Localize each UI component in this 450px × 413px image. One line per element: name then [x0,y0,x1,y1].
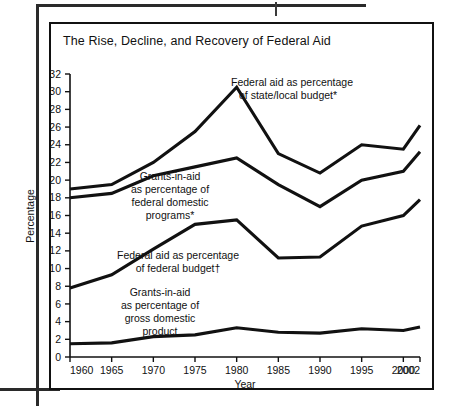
x-axis-tick-label: 1975 [183,364,207,376]
y-axis-tick-label: 8 [55,280,61,292]
x-axis-tick-label: 1980 [225,364,249,376]
y-axis-tick-label: 2 [55,333,61,345]
y-axis-tick-label: 30 [49,85,61,97]
y-axis-tick-label: 16 [49,209,61,221]
y-axis-tick-label: 22 [49,156,61,168]
annotation-line-4: product [142,325,177,337]
annotation-line-1: Federal aid as percentage [231,76,353,88]
y-axis-tick-label: 0 [55,351,61,363]
y-axis-tick-label: 14 [49,227,61,239]
series-line-0 [70,87,420,189]
y-axis-tick-label: 10 [49,262,61,274]
y-axis-tick-label: 26 [49,121,61,133]
annotation-line-2: of state/local budget* [239,89,337,101]
y-axis-tick-label: 24 [49,138,61,150]
x-axis-title: Year [234,378,256,390]
x-axis-tick-label: 2002 [397,364,421,376]
annotation-line-3: federal domestic [131,196,208,208]
annotation-line-1: Federal aid as percentage [117,249,239,261]
x-axis-tick-label: 1985 [267,364,291,376]
x-axis-tick-label: 1990 [308,364,332,376]
y-axis-tick-label: 32 [49,68,61,80]
annotation-line-1: Grants-in-aid [130,286,191,298]
annotation-line-1: Grants-in-aid [140,170,201,182]
y-axis-tick-label: 12 [49,244,61,256]
x-axis-tick-label: 1965 [100,364,124,376]
y-axis-tick-label: 28 [49,103,61,115]
annotation-state-local-budget: Federal aid as percentage of state/local… [231,76,353,101]
x-axis-tick-label: 1960 [70,364,94,376]
annotation-line-2: of federal budget† [136,262,221,274]
axes [70,74,420,357]
annotation-federal-budget: Federal aid as percentage of federal bud… [117,249,239,274]
annotation-line-3: gross domestic [125,312,196,324]
x-axis-tick-label: 1970 [142,364,166,376]
annotation-federal-domestic-programs: Grants-in-aid as percentage of federal d… [131,170,209,221]
line-chart: 02468101214161820222426283032 1960196519… [0,0,450,413]
annotation-gross-domestic-product: Grants-in-aid as percentage of gross dom… [121,286,199,337]
annotation-line-2: as percentage of [121,299,199,311]
annotation-line-2: as percentage of [131,183,209,195]
annotation-line-4: programs* [146,209,194,221]
y-axis-tick-label: 20 [49,174,61,186]
y-axis-tick-label: 6 [55,298,61,310]
x-axis-ticks: 1960196519701975198019851990199520002002 [70,357,420,376]
y-axis-ticks: 02468101214161820222426283032 [49,68,70,363]
series-line-2 [70,200,420,288]
y-axis-title: Percentage [24,189,36,243]
x-axis-tick-label: 1995 [350,364,374,376]
y-axis-tick-label: 4 [55,315,61,327]
y-axis-tick-label: 18 [49,191,61,203]
series-line-3 [70,327,420,344]
